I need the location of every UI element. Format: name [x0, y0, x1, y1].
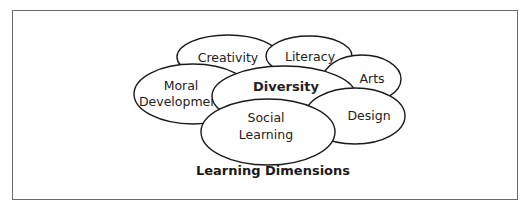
node-label: Design [347, 108, 390, 123]
node-label: Arts [359, 71, 384, 86]
learning-dimensions-diagram: Creativity Literacy Arts Moral Developme… [0, 0, 527, 209]
node-label: Literacy [285, 49, 336, 64]
node-label: Diversity [253, 79, 319, 94]
node-label-line-2: Development [139, 94, 223, 109]
node-social-learning: Social Learning [201, 99, 335, 165]
node-label: Creativity [198, 50, 259, 65]
node-label-line-2: Learning [239, 127, 293, 142]
node-label-line-1: Social [247, 110, 284, 125]
diagram-title: Learning Dimensions [196, 163, 350, 178]
node-label-line-1: Moral [164, 78, 199, 93]
